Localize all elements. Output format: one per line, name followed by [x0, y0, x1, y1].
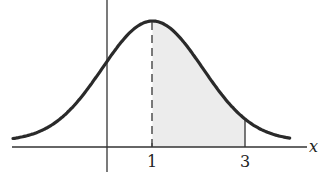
normal-curve-chart: 1 3 x: [0, 0, 320, 181]
shaded-area-1-to-3: [153, 21, 246, 147]
tick-label-1: 1: [147, 152, 157, 171]
tick-label-3: 3: [240, 152, 250, 171]
x-axis-label: x: [309, 137, 318, 156]
